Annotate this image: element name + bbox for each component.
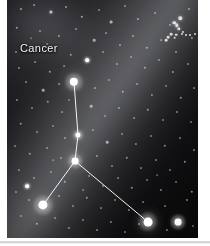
night-sky-background	[7, 0, 198, 238]
bottom-rule-highlight	[0, 243, 210, 244]
constellation-photograph: Cancer	[7, 0, 198, 238]
figure-sheet: Cancer	[0, 0, 210, 246]
constellation-label: Cancer	[20, 42, 58, 54]
